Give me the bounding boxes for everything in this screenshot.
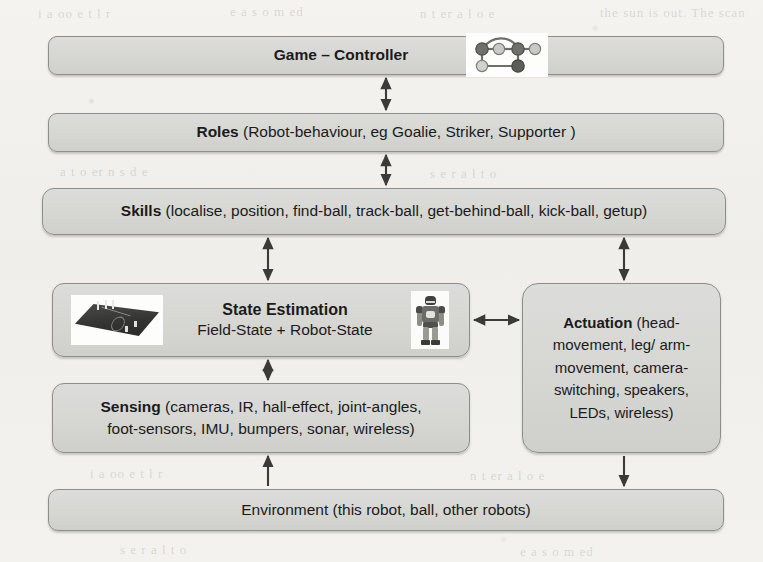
skills-text: Skills (localise, position, find-ball, t… — [121, 201, 647, 221]
state-estimation-text: State Estimation Field-State + Robot-Sta… — [163, 299, 411, 341]
environment-label: Environment (this robot, ball, other rob… — [241, 500, 530, 520]
connector-layer — [0, 0, 763, 562]
roles-label: Roles — [196, 123, 238, 140]
sensing-text: Sensing (cameras, IR, hall-effect, joint… — [100, 396, 421, 441]
game-controller-label: Game – Controller — [274, 45, 408, 65]
roles-detail: (Robot-behaviour, eg Goalie, Striker, Su… — [239, 123, 576, 140]
ghost-text-1: i a oo e t l r — [38, 7, 111, 21]
layer-box-roles[interactable]: Roles (Robot-behaviour, eg Goalie, Strik… — [48, 113, 724, 152]
network-graph-icon — [466, 33, 548, 77]
skills-label: Skills — [121, 202, 162, 219]
ghost-text-5: a t o er n s d e — [60, 165, 149, 179]
ghost-text-10: e a s o m ed — [520, 545, 594, 559]
ghost-text-4: the sun is out. The scan — [600, 6, 746, 20]
layer-box-state-estimation[interactable]: State Estimation Field-State + Robot-Sta… — [52, 283, 470, 357]
sensing-label: Sensing — [100, 398, 160, 415]
layer-box-sensing[interactable]: Sensing (cameras, IR, hall-effect, joint… — [52, 383, 470, 453]
ghost-text-8: n t er a l o e — [470, 469, 545, 483]
layer-box-actuation[interactable]: Actuation (head-movement, leg/ arm-movem… — [522, 283, 721, 453]
state-estimation-label: State Estimation — [163, 299, 407, 320]
ghost-text-9: s e r a l t o — [120, 543, 187, 557]
roles-text: Roles (Robot-behaviour, eg Goalie, Strik… — [196, 122, 575, 142]
ghost-text-7: i a oo e t l r — [90, 467, 163, 481]
humanoid-robot-image — [411, 291, 449, 349]
actuation-label: Actuation — [563, 314, 632, 331]
sensing-detail-line1: (cameras, IR, hall-effect, joint-angles, — [161, 398, 422, 415]
layer-box-game-controller[interactable]: Game – Controller — [48, 36, 724, 75]
soccer-field-image — [71, 295, 163, 345]
ghost-text-2: e a s o m ed — [230, 5, 304, 19]
sensing-detail-line2: foot-sensors, IMU, bumpers, sonar, wirel… — [107, 420, 415, 437]
state-estimation-subtitle: Field-State + Robot-State — [163, 320, 407, 340]
skills-detail: (localise, position, find-ball, track-ba… — [161, 202, 647, 219]
paper-background — [0, 0, 763, 562]
actuation-text: Actuation (head-movement, leg/ arm-movem… — [533, 312, 710, 425]
ghost-text-3: n t er a l o e — [420, 7, 495, 21]
layer-box-skills[interactable]: Skills (localise, position, find-ball, t… — [42, 188, 726, 235]
ghost-text-6: s e r a l t o — [430, 167, 497, 181]
layer-box-environment[interactable]: Environment (this robot, ball, other rob… — [48, 489, 724, 531]
